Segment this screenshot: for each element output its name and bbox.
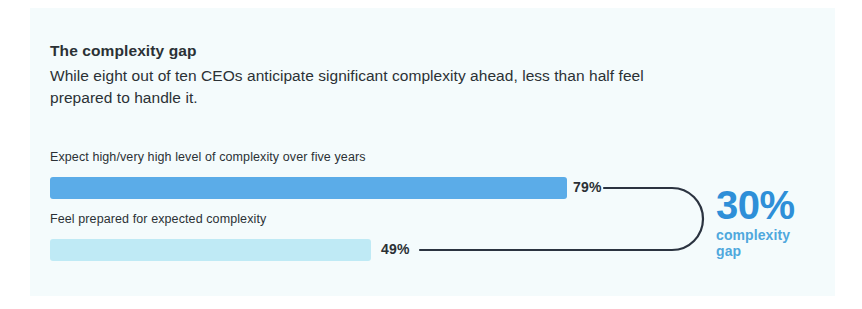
gap-caption-line1: complexity [716, 227, 790, 243]
bar-chart: Expect high/very high level of complexit… [0, 0, 862, 309]
gap-caption: complexitygap [716, 228, 795, 259]
gap-callout: 30% complexitygap [716, 186, 795, 259]
bar-feel-prepared [50, 239, 371, 261]
bar-value-expect-complexity: 79% [573, 179, 602, 195]
gap-figure: 30% [716, 186, 795, 224]
bar-value-feel-prepared: 49% [381, 241, 410, 257]
bar-expect-complexity [50, 177, 567, 199]
infographic-screenshot: The complexity gap While eight out of te… [0, 0, 862, 309]
bar-label-expect-complexity: Expect high/very high level of complexit… [50, 150, 366, 164]
bar-label-feel-prepared: Feel prepared for expected complexity [50, 212, 266, 226]
gap-caption-line2: gap [716, 243, 741, 259]
